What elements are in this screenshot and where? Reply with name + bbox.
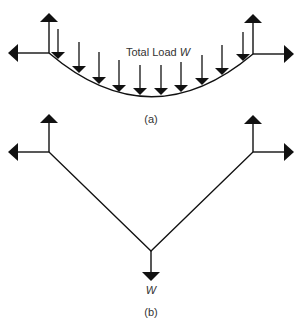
total-load-label: Total Load W xyxy=(126,46,190,58)
load-arrow xyxy=(133,65,147,95)
arrow-right-icon xyxy=(284,143,294,161)
load-arrow xyxy=(215,45,229,75)
load-arrow xyxy=(195,55,209,85)
load-symbol-a: W xyxy=(180,46,190,58)
arrow-up-icon xyxy=(244,14,262,23)
arrow-up-icon xyxy=(40,114,58,123)
cable-v-shape xyxy=(49,152,253,251)
arrow-up-icon xyxy=(244,115,262,124)
arrow-left-icon xyxy=(8,44,18,62)
distributed-load-arrows xyxy=(51,29,250,95)
load-arrow xyxy=(112,60,126,92)
load-symbol-b: W xyxy=(146,284,156,296)
load-arrow xyxy=(174,62,188,92)
point-load-arrow xyxy=(142,251,160,281)
arrow-up-icon xyxy=(40,13,58,22)
caption-b: (b) xyxy=(144,306,157,318)
load-arrow xyxy=(72,42,86,73)
arrow-down-icon xyxy=(142,272,160,281)
load-arrow xyxy=(236,32,250,61)
arrow-left-icon xyxy=(8,143,18,161)
load-arrow xyxy=(51,29,65,59)
load-arrow xyxy=(92,52,106,84)
total-load-text: Total Load xyxy=(126,46,177,58)
arrow-right-icon xyxy=(284,45,294,63)
caption-a: (a) xyxy=(144,113,157,125)
load-arrow xyxy=(154,65,168,95)
figure-b xyxy=(8,114,294,281)
cable-load-diagram: Total Load W (a) W (b) xyxy=(0,0,298,320)
